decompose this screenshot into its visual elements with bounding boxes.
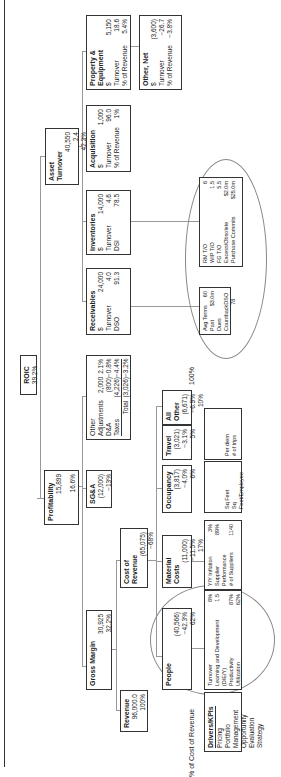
kpi-row: Utilization62% [235, 594, 242, 686]
all-other-value: (6,671) [181, 394, 189, 421]
all-other-pct: −6.9% [189, 394, 197, 421]
material-costs-value: (11,000) [181, 539, 189, 584]
kpi-row: Per diem [224, 412, 231, 456]
driver-item: Pricing [216, 696, 224, 748]
profitability-value: 15,899 [55, 474, 63, 521]
kpi-row: WIP T/O1.5 [209, 181, 216, 263]
gross-margin-pct: 32.2% [105, 614, 113, 686]
revenue-value: 96,000.0 [131, 694, 139, 728]
cost-of-revenue-title: Cost of Revenue [123, 532, 139, 584]
roic-title: ROIC [23, 359, 31, 391]
kpi-row: Past Dues$3.0m [209, 291, 223, 331]
kpi-row: Excess/Obsolete$2.0m [223, 181, 230, 263]
travel-value: (3,021) [173, 429, 181, 456]
driver-item: Opportunity Evaluation [240, 696, 256, 748]
gross-margin-box[interactable]: Gross Margin 30,925 32.2% [86, 610, 112, 690]
other-total-row: Total(3,026)−3.2% [122, 359, 130, 436]
acquisition-title: Acquisition [89, 109, 97, 168]
occupancy-value: (3,817) [173, 469, 181, 509]
occupancy-share: 6% [189, 469, 197, 509]
other-net-title: Other, Net [142, 19, 150, 86]
property-equipment-title: Property & Equipment [89, 19, 105, 86]
inventories-title: Inventories [89, 194, 97, 251]
other-net-row: $(3,600) [150, 19, 158, 86]
all-other-box[interactable]: All Other (6,671) −6.9% 10% [162, 390, 192, 425]
cost-of-revenue-pct: −68% [147, 532, 155, 584]
inventories-row: DSI78.5 [113, 194, 121, 251]
kpi-row: Sq Feet [224, 465, 231, 509]
acquisition-row: Turnover96.0 [105, 109, 113, 168]
receivables-row: $24,000 [97, 272, 105, 331]
driver-item: Portfolio Management [224, 696, 240, 748]
kpi-row: RM T/O6 [202, 181, 209, 263]
revenue-box[interactable]: Revenue 96,000.0 100% [120, 690, 148, 732]
sga-value: (12,000) [97, 474, 105, 504]
kpi-row: Avg Terms60 [202, 291, 209, 331]
pct-cost-of-revenue-label: % of Cost of Revenue [188, 709, 195, 777]
acquisition-box[interactable]: Acquisition $1,000 Turnover96.0 % of Rev… [86, 105, 131, 172]
cost-of-revenue-box[interactable]: Cost of Revenue (65,075) −68% [120, 528, 148, 588]
other-box[interactable]: Other Adjustments2,0002.1% D&A(800)−0.8%… [86, 355, 131, 440]
sga-box[interactable]: SG&A (12,000) −13% [86, 470, 112, 508]
kpi-row: # of trips [231, 412, 238, 456]
property-equipment-row: $5,150 [105, 19, 113, 86]
other-net-row: Turnover−26.7 [158, 19, 166, 86]
asset-turnover-box[interactable]: Asset Turnover 40,550 2.4 42.2% [45, 128, 79, 185]
occupancy-kpi-box[interactable]: Sq Feet Sq Feet/Employee [204, 461, 242, 513]
people-box[interactable]: People (40,566) −42.3% 62% [162, 608, 192, 690]
kpi-row: FG T/O5.5 [216, 181, 223, 263]
people-pct: −42.3% [181, 612, 189, 686]
other-row: D&A(800)−0.8% [105, 359, 113, 436]
connector [40, 157, 41, 499]
people-kpi-box[interactable]: Turnover8% Learning and Development (D/E… [204, 590, 242, 690]
kpi-row: Supplier Performance89% [214, 524, 228, 586]
other-title: Other [89, 359, 97, 436]
material-costs-box[interactable]: Material Costs (11,000) −11.5% 17% [162, 535, 192, 588]
receivables-row: Turnover4.0 [105, 272, 113, 331]
inventories-box[interactable]: Inventories $14,000 Turnover4.6 DSI78.5 [86, 190, 131, 255]
acquisition-row: % of Revenue1% [113, 109, 121, 168]
asset-turnover-value: 40,550 [64, 132, 72, 181]
travel-title: Travel [165, 429, 173, 456]
property-equipment-box[interactable]: Property & Equipment $5,150 Turnover18.6… [86, 15, 131, 90]
receivables-box[interactable]: Receivables $24,000 Turnover4.0 DSO91.3 [86, 268, 131, 335]
connector [131, 306, 199, 307]
travel-share: 5% [189, 429, 197, 456]
roic-box[interactable]: ROIC 39.2% [20, 355, 37, 395]
revenue-pct: 100% [139, 694, 147, 728]
acquisition-row: $1,000 [97, 109, 105, 168]
kpi-row: Turnover8% [207, 594, 214, 686]
other-row: Taxes(4,226)−4.4% [113, 359, 122, 436]
people-value: (40,566) [173, 612, 181, 686]
other-net-box[interactable]: Other, Net $(3,600) Turnover−26.7 % of R… [139, 15, 182, 90]
occupancy-box[interactable]: Occupancy (3,817) −4.0% 6% [162, 465, 192, 513]
driver-item: Strategy [256, 696, 264, 748]
material-kpi-box[interactable]: Y/Y Inflation3% Supplier Performance89% … [204, 520, 242, 590]
profitability-title: Profitability [47, 474, 55, 521]
gross-margin-title: Gross Margin [89, 614, 97, 686]
sga-title: SG&A [89, 474, 97, 504]
asset-turnover-ratio: 2.4 [72, 132, 80, 181]
drivers-kpis-box[interactable]: Drivers/KPIs Pricing Portfolio Managemen… [204, 692, 242, 752]
travel-kpi-box[interactable]: Per diem # of trips [204, 408, 242, 460]
profitability-box[interactable]: Profitability 15,899 16.6% [44, 470, 79, 525]
inventories-row: $14,000 [97, 194, 105, 251]
receivables-kpi-box[interactable]: Avg Terms60 Past Dues$3.0m CountbackDSO … [199, 287, 231, 335]
occupancy-pct: −4.0% [181, 469, 189, 509]
kpi-row: CountbackDSO 78 [223, 291, 237, 331]
profitability-pct: 16.6% [69, 474, 77, 521]
other-net-row: % of Revenue−3.8% [166, 19, 174, 86]
property-equipment-row: % of Revenue5.4% [121, 19, 129, 86]
inventories-kpi-box[interactable]: RM T/O6 WIP T/O1.5 FG T/O5.5 Excess/Obso… [199, 177, 243, 267]
kpi-row: Y/Y Inflation3% [207, 524, 214, 586]
connector [82, 397, 83, 667]
travel-pct: −3.1% [181, 429, 189, 456]
kpi-row: Sq Feet/Employee [231, 465, 245, 509]
kpi-row: Purchase Commits$25.0m [230, 181, 237, 263]
kpi-row: # of Suppliers1140 [228, 524, 235, 586]
travel-box[interactable]: Travel (3,021) −3.1% 5% [162, 425, 192, 460]
material-costs-pct: −11.5% [189, 539, 197, 584]
other-row: Adjustments2,0002.1% [97, 359, 105, 436]
occupancy-title: Occupancy [165, 469, 173, 509]
